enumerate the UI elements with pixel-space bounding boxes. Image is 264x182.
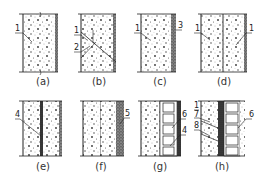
callout-h-7: 7 — [194, 111, 199, 119]
callout-b-2: 2 — [74, 44, 79, 52]
panel-f — [80, 101, 130, 156]
callout-b-1: 1 — [74, 27, 79, 35]
panel-c — [134, 14, 182, 72]
panel-a — [15, 12, 58, 75]
callout-g-4: 4 — [182, 127, 187, 135]
caption-g: (g) — [145, 162, 175, 172]
caption-b: (b) — [84, 77, 114, 87]
callout-h-8: 8 — [194, 122, 199, 130]
callout-g-6: 6 — [182, 111, 187, 119]
callout-f-5: 5 — [125, 110, 130, 118]
callout-c-3: 3 — [178, 22, 183, 30]
panel-e — [15, 101, 62, 156]
panel-d — [194, 14, 252, 72]
panel-g — [138, 101, 186, 156]
callout-h-6: 6 — [249, 111, 254, 119]
panel-h — [194, 101, 252, 156]
callout-d-1-right: 1 — [249, 25, 254, 33]
caption-e: (e) — [28, 162, 58, 172]
panel-b — [74, 14, 116, 72]
caption-f: (f) — [86, 162, 116, 172]
callout-d-1-left: 1 — [195, 25, 200, 33]
callout-e-4: 4 — [15, 111, 20, 119]
callout-a-1: 1 — [15, 25, 20, 33]
caption-d: (d) — [209, 77, 239, 87]
callout-c-1: 1 — [135, 25, 140, 33]
wall-sections-figure: (a) (b) (c) (d) (e) (f) (g) (h) 1 1 2 1 … — [0, 0, 264, 182]
caption-h: (h) — [207, 162, 237, 172]
caption-c: (c) — [145, 77, 175, 87]
callout-h-1: 1 — [194, 102, 199, 110]
caption-a: (a) — [28, 77, 58, 87]
